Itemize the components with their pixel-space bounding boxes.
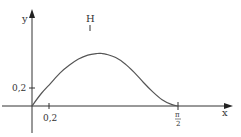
y-axis-label: y <box>21 13 28 24</box>
x-tick-label-pi-den: 2 <box>176 120 180 128</box>
y-tick-label-0-2: 0,2 <box>12 83 26 93</box>
function-curve <box>32 53 178 106</box>
x-tick-label-pi-num: π <box>175 111 180 119</box>
h-point-label: H <box>86 13 95 24</box>
function-plot: y x H 0,2 0,2 π 2 <box>0 0 241 137</box>
x-tick-label-0-2: 0,2 <box>43 113 57 123</box>
y-axis-arrow-icon <box>29 9 35 18</box>
x-axis-label: x <box>222 107 228 118</box>
